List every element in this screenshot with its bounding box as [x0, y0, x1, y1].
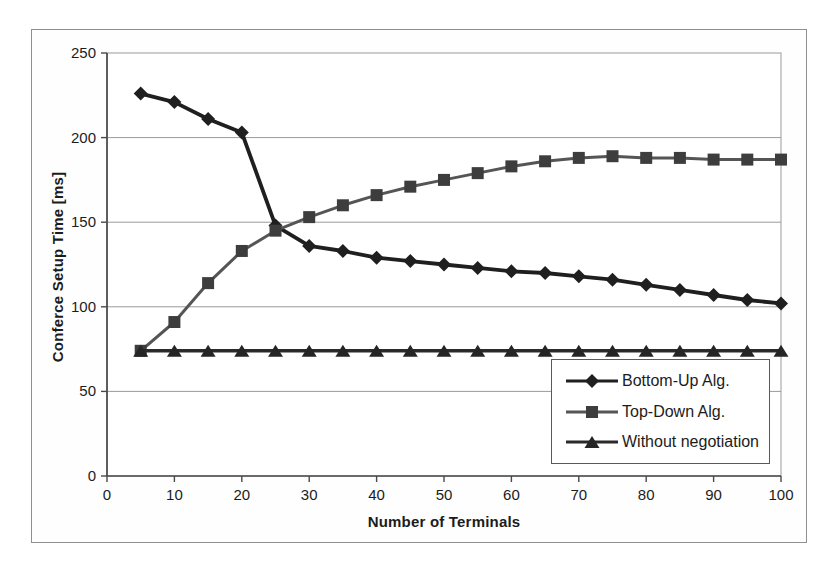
series-top-down-alg-marker — [404, 181, 416, 193]
series-top-down-alg-marker — [270, 225, 282, 237]
y-axis-title: Conferce Setup Time [ms] — [49, 172, 66, 362]
chart-frame: 0501001502002500102030405060708090100 Co… — [31, 29, 807, 543]
series-top-down-alg-marker — [539, 155, 551, 167]
series-top-down-alg-marker — [202, 277, 214, 289]
x-tick-label-90: 90 — [705, 486, 722, 503]
y-tick-label-0: 0 — [88, 467, 96, 484]
y-tick-label-50: 50 — [79, 382, 96, 399]
legend-diamond-glyph — [585, 374, 599, 388]
y-tick-label-250: 250 — [71, 44, 96, 61]
legend-square-glyph — [586, 406, 598, 418]
series-top-down-alg-marker — [472, 167, 484, 179]
x-tick-label-10: 10 — [166, 486, 183, 503]
legend-label: Top-Down Alg. — [622, 403, 725, 421]
x-axis-title: Number of Terminals — [368, 513, 521, 530]
legend-marker-triangle-icon — [565, 434, 619, 450]
x-tick-label-100: 100 — [768, 486, 793, 503]
chart-legend: Bottom-Up Alg. Top-Down Alg. Without neg… — [551, 359, 770, 464]
x-tick-label-40: 40 — [368, 486, 385, 503]
series-top-down-alg-marker — [607, 150, 619, 162]
series-top-down-alg-marker — [674, 152, 686, 164]
legend-item-top-down-alg: Top-Down Alg. — [565, 403, 769, 421]
x-tick-label-70: 70 — [570, 486, 587, 503]
series-top-down-alg-marker — [640, 152, 652, 164]
scanned-chart-page: 0501001502002500102030405060708090100 Co… — [0, 0, 835, 573]
y-tick-label-100: 100 — [71, 298, 96, 315]
x-tick-label-0: 0 — [103, 486, 111, 503]
series-top-down-alg-marker — [505, 160, 517, 172]
series-top-down-alg-marker — [573, 152, 585, 164]
legend-marker-square-icon — [565, 404, 619, 420]
series-top-down-alg-marker — [371, 189, 383, 201]
legend-label: Without negotiation — [622, 433, 759, 451]
legend-label: Bottom-Up Alg. — [622, 372, 730, 390]
series-top-down-alg-marker — [708, 154, 720, 166]
series-top-down-alg-marker — [303, 211, 315, 223]
x-tick-label-60: 60 — [503, 486, 520, 503]
series-top-down-alg-marker — [236, 245, 248, 257]
x-tick-label-30: 30 — [301, 486, 318, 503]
series-top-down-alg-marker — [775, 154, 787, 166]
legend-item-without-negotiation: Without negotiation — [565, 433, 769, 451]
series-top-down-alg-marker — [741, 154, 753, 166]
x-tick-label-50: 50 — [436, 486, 453, 503]
series-top-down-alg-marker — [438, 174, 450, 186]
x-tick-label-80: 80 — [638, 486, 655, 503]
legend-marker-diamond-icon — [565, 373, 619, 389]
series-top-down-alg-marker — [168, 316, 180, 328]
legend-item-bottom-up-alg: Bottom-Up Alg. — [565, 372, 769, 390]
series-top-down-alg-marker — [337, 199, 349, 211]
y-tick-label-200: 200 — [71, 129, 96, 146]
y-tick-label-150: 150 — [71, 213, 96, 230]
x-tick-label-20: 20 — [233, 486, 250, 503]
line-chart-canvas: 0501001502002500102030405060708090100 — [32, 30, 808, 544]
